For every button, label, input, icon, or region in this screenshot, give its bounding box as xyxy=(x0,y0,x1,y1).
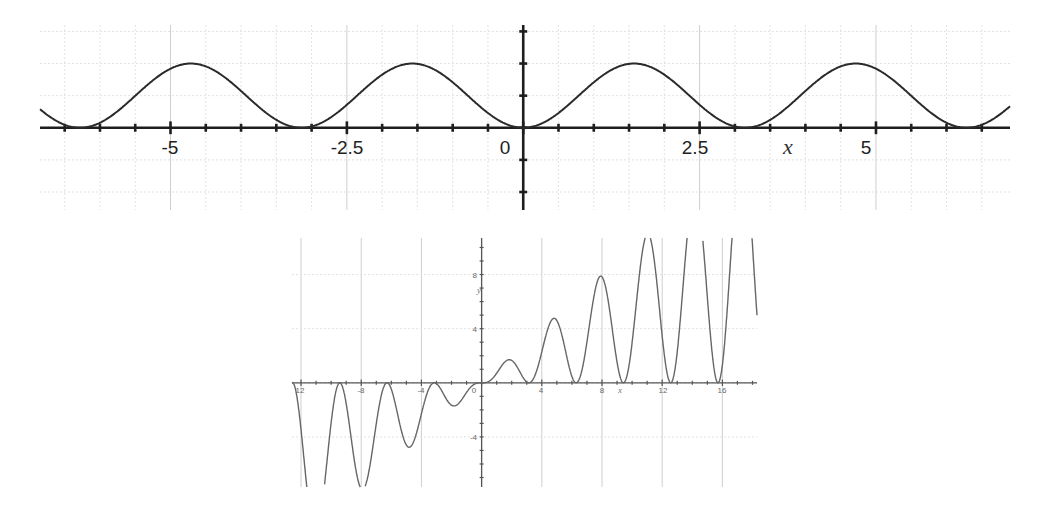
y-axis-label: y xyxy=(476,285,481,295)
x-tick-label: 12 xyxy=(296,386,305,395)
y-tick-label: -4 xyxy=(470,433,478,442)
bottom-chart-curve xyxy=(292,238,757,487)
x-tick-label: 8 xyxy=(600,386,605,395)
x-tick-label: 4 xyxy=(539,386,544,395)
x-tick-label: 0 xyxy=(472,386,477,395)
x-tick-label: -4 xyxy=(417,386,425,395)
y-tick-label: 8 xyxy=(473,271,478,280)
x-axis-label: x xyxy=(617,385,622,395)
bottom-chart-grid xyxy=(292,238,757,487)
x-tick-label: 12 xyxy=(659,386,668,395)
bottom-chart-x-tick-labels: 12 -8 -4 0 4 8 12 16 xyxy=(296,386,727,395)
bottom-chart-y-tick-labels: 8 4 -4 xyxy=(470,271,478,442)
x-tick-label: -8 xyxy=(357,386,365,395)
bottom-chart-x-sin-squared: 12 -8 -4 0 4 8 12 16 8 4 -4 x y xyxy=(0,0,1043,518)
bottom-chart-axes xyxy=(292,238,757,487)
x-tick-label: 16 xyxy=(718,386,727,395)
y-tick-label: 4 xyxy=(473,325,478,334)
